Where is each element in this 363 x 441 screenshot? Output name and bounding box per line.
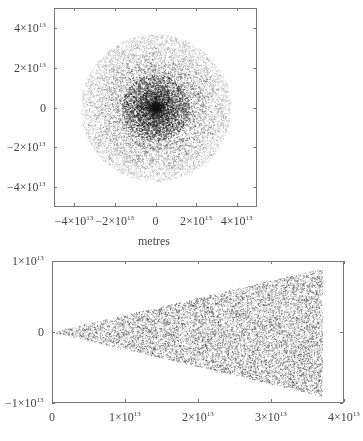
tick-mark [52, 399, 53, 402]
bottom-y-tick-label: −1×1013 [5, 397, 44, 409]
top-x-axis-label: metres [138, 234, 170, 249]
bottom-x-tick-label: 4×1013 [328, 411, 360, 423]
tick-mark [340, 332, 343, 333]
bottom-x-tick-label: 3×1013 [255, 411, 287, 423]
tick-mark [54, 187, 57, 188]
tick-mark [156, 203, 157, 206]
tick-mark [125, 261, 126, 264]
tick-mark [52, 261, 53, 264]
tick-mark [253, 187, 256, 188]
tick-mark [253, 108, 256, 109]
tick-mark [74, 8, 75, 11]
tick-mark [156, 8, 157, 11]
tick-mark [74, 203, 75, 206]
tick-mark [196, 8, 197, 11]
tick-mark [253, 147, 256, 148]
tick-mark [340, 403, 343, 404]
tick-mark [271, 261, 272, 264]
top-x-tick-label: −4×1013 [55, 215, 94, 227]
tick-mark [54, 147, 57, 148]
tick-mark [115, 203, 116, 206]
bottom-plot-frame [52, 261, 344, 403]
bottom-x-tick-label: 2×1013 [182, 411, 214, 423]
tick-mark [198, 261, 199, 264]
top-y-tick-label: 2×1013 [14, 62, 46, 74]
figure: 4×10132×10130−2×1013−4×1013 −4×1013−2×10… [0, 0, 363, 441]
tick-mark [54, 28, 57, 29]
tick-mark [344, 261, 345, 264]
top-y-tick-label: 4×1013 [14, 22, 46, 34]
top-x-tick-label: −2×1013 [95, 215, 134, 227]
tick-mark [271, 399, 272, 402]
tick-mark [344, 399, 345, 402]
tick-mark [52, 332, 55, 333]
bottom-x-tick-label: 0 [49, 411, 55, 423]
tick-mark [237, 8, 238, 11]
tick-mark [115, 8, 116, 11]
top-x-tick-label: 0 [153, 215, 159, 227]
top-y-tick-label: 0 [40, 102, 46, 114]
tick-mark [54, 108, 57, 109]
top-x-tick-label: 4×1013 [221, 215, 253, 227]
top-y-tick-label: −4×1013 [7, 181, 46, 193]
tick-mark [125, 399, 126, 402]
tick-mark [253, 68, 256, 69]
tick-mark [52, 403, 55, 404]
top-x-tick-label: 2×1013 [180, 215, 212, 227]
tick-mark [198, 399, 199, 402]
tick-mark [340, 261, 343, 262]
tick-mark [54, 68, 57, 69]
tick-mark [253, 28, 256, 29]
top-y-tick-label: −2×1013 [7, 141, 46, 153]
bottom-y-tick-label: 0 [38, 326, 44, 338]
tick-mark [196, 203, 197, 206]
tick-mark [237, 203, 238, 206]
bottom-x-tick-label: 1×1013 [109, 411, 141, 423]
bottom-y-tick-label: 1×1013 [12, 255, 44, 267]
top-plot-frame [54, 8, 257, 207]
